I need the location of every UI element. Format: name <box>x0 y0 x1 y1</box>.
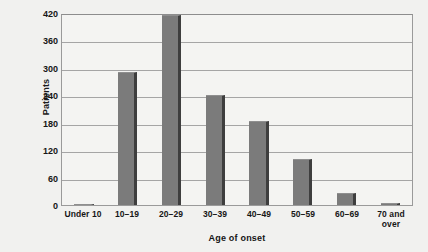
bars-layer <box>62 15 412 205</box>
y-axis-tick-label: 180 <box>43 119 58 129</box>
bar-slot <box>237 15 281 205</box>
bar-slot <box>368 15 412 205</box>
x-axis-tick-labels: Under 1010–1920–2930–3940–4950–5960–6970… <box>61 209 413 229</box>
bar-slot <box>106 15 150 205</box>
x-axis-tick-label-line: Under 10 <box>61 209 105 219</box>
x-axis-tick-label: 60–69 <box>325 209 369 229</box>
x-axis-tick-label: Under 10 <box>61 209 105 229</box>
x-axis-tick-label-line: 40–49 <box>237 209 281 219</box>
bar[interactable] <box>162 15 181 205</box>
y-axis-tick-label: 120 <box>43 146 58 156</box>
bar[interactable] <box>74 204 93 205</box>
bar[interactable] <box>381 203 400 205</box>
bar[interactable] <box>118 72 137 205</box>
x-axis-tick-label: 50–59 <box>281 209 325 229</box>
bar[interactable] <box>206 95 225 205</box>
x-axis-tick-label-line: 10–19 <box>105 209 149 219</box>
x-axis-tick-label: 70 andover <box>369 209 413 229</box>
x-axis-tick-label-line: 20–29 <box>149 209 193 219</box>
y-axis-tick-label: 0 <box>53 201 58 211</box>
bar-slot <box>281 15 325 205</box>
x-axis-title: Age of onset <box>61 233 413 243</box>
bar-slot <box>193 15 237 205</box>
y-axis-tick-label: 240 <box>43 91 58 101</box>
x-axis-tick-label-line: 50–59 <box>281 209 325 219</box>
x-axis-tick-label-line: 60–69 <box>325 209 369 219</box>
y-axis-tick-label: 360 <box>43 36 58 46</box>
x-axis-tick-label: 10–19 <box>105 209 149 229</box>
plot-area <box>61 14 413 206</box>
bar-slot <box>325 15 369 205</box>
x-axis-tick-label-line: over <box>369 219 413 229</box>
x-axis-tick-label: 20–29 <box>149 209 193 229</box>
x-axis-tick-label: 40–49 <box>237 209 281 229</box>
bar-slot <box>62 15 106 205</box>
bar[interactable] <box>337 193 356 205</box>
y-axis-tick-label: 420 <box>43 9 58 19</box>
bar[interactable] <box>293 159 312 205</box>
x-axis-tick-label: 30–39 <box>193 209 237 229</box>
bar-chart-figure: Patients 060120180240300360420 Under 101… <box>0 0 428 252</box>
bar-slot <box>150 15 194 205</box>
y-axis-tick-label: 300 <box>43 64 58 74</box>
x-axis-tick-label-line: 70 and <box>369 209 413 219</box>
y-axis-tick-labels: 060120180240300360420 <box>22 10 58 206</box>
bar[interactable] <box>249 121 268 205</box>
x-axis-tick-label-line: 30–39 <box>193 209 237 219</box>
y-axis-tick-label: 60 <box>48 174 58 184</box>
